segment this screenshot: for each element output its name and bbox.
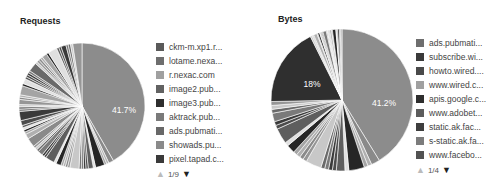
legend-item[interactable]: www.facebo... xyxy=(416,148,486,162)
legend-swatch xyxy=(416,95,424,103)
requests-chart-title: Requests xyxy=(20,16,61,26)
legend-item[interactable]: lotame.nexa... xyxy=(156,54,224,68)
bytes-chart-panel: Bytes 41.2% 18% ads.pubmati... subscribe… xyxy=(250,0,500,192)
legend-swatch xyxy=(156,71,164,79)
bytes-pie-chart[interactable]: 41.2% 18% xyxy=(267,26,417,176)
legend-swatch xyxy=(156,141,164,149)
legend-item[interactable]: image3.pub... xyxy=(156,96,224,110)
page-indicator: 1/9 xyxy=(168,170,179,179)
legend-item[interactable]: image2.pub... xyxy=(156,82,224,96)
requests-legend-pager: ▲ 1/9 ▼ xyxy=(156,169,191,179)
bytes-legend: ads.pubmati... subscribe.wi... howto.wir… xyxy=(416,36,486,162)
legend-item[interactable]: howto.wired.... xyxy=(416,64,486,78)
legend-swatch xyxy=(416,137,424,145)
requests-chart-panel: Requests 41.7% ckm-m.xp1.r... lotame.nex… xyxy=(0,0,250,192)
requests-legend: ckm-m.xp1.r... lotame.nexa... r.nexac.co… xyxy=(156,40,224,166)
legend-swatch xyxy=(156,85,164,93)
bytes-legend-pager: ▲ 1/4 ▼ xyxy=(416,165,451,175)
legend-swatch xyxy=(156,99,164,107)
previous-page-icon[interactable]: ▲ xyxy=(416,165,425,175)
legend-swatch xyxy=(156,155,164,163)
legend-item[interactable]: www.adobet... xyxy=(416,106,486,120)
legend-item[interactable]: apis.google.c... xyxy=(416,92,486,106)
legend-item[interactable]: r.nexac.com xyxy=(156,68,224,82)
legend-swatch xyxy=(416,67,424,75)
legend-swatch xyxy=(416,81,424,89)
legend-swatch xyxy=(156,57,164,65)
legend-swatch xyxy=(416,109,424,117)
legend-item[interactable]: www.wired.c... xyxy=(416,78,486,92)
bytes-chart-title: Bytes xyxy=(278,14,303,24)
next-page-icon[interactable]: ▼ xyxy=(182,169,191,179)
legend-item[interactable]: ckm-m.xp1.r... xyxy=(156,40,224,54)
legend-item[interactable]: static.ak.fac... xyxy=(416,120,486,134)
requests-pie-chart[interactable]: 41.7% xyxy=(12,38,152,178)
legend-swatch xyxy=(416,53,424,61)
legend-item[interactable]: aktrack.pub... xyxy=(156,110,224,124)
legend-swatch xyxy=(416,123,424,131)
next-page-icon[interactable]: ▼ xyxy=(442,165,451,175)
legend-item[interactable]: ads.pubmati... xyxy=(416,36,486,50)
legend-swatch xyxy=(156,127,164,135)
legend-item[interactable]: s-static.ak.fa... xyxy=(416,134,486,148)
legend-swatch xyxy=(156,43,164,51)
requests-pie-largest-label: 41.7% xyxy=(112,105,137,115)
previous-page-icon[interactable]: ▲ xyxy=(156,169,165,179)
bytes-pie-second-label: 18% xyxy=(303,79,320,89)
legend-item[interactable]: showads.pu... xyxy=(156,138,224,152)
bytes-pie-largest-label: 41.2% xyxy=(372,98,397,108)
legend-swatch xyxy=(416,39,424,47)
legend-swatch xyxy=(416,151,424,159)
legend-item[interactable]: subscribe.wi... xyxy=(416,50,486,64)
legend-item[interactable]: ads.pubmati... xyxy=(156,124,224,138)
legend-item[interactable]: pixel.tapad.c... xyxy=(156,152,224,166)
page-indicator: 1/4 xyxy=(428,166,439,175)
legend-swatch xyxy=(156,113,164,121)
